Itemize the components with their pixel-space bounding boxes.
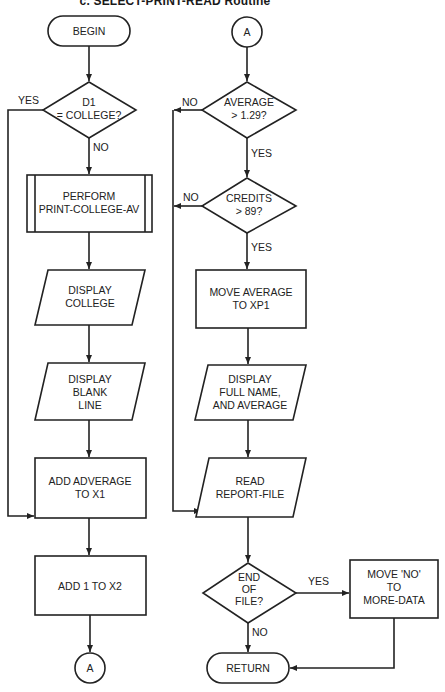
decision-d1-line2: = COLLEGE?	[57, 109, 122, 121]
decision-eof-line3: FILE?	[235, 595, 263, 607]
decision-credits: CREDITS > 89?	[202, 178, 296, 233]
move-average-process: MOVE AVERAGE TO XP1	[196, 270, 306, 328]
begin-label: BEGIN	[73, 25, 106, 37]
move-no-process: MOVE 'NO' TO MORE-DATA	[350, 560, 438, 618]
credits-yes-label: YES	[251, 241, 272, 253]
display-college-line1: DISPLAY	[68, 284, 112, 296]
move-average-line1: MOVE AVERAGE	[209, 286, 292, 298]
decision-d1-line1: D1	[82, 96, 96, 108]
decision-credits-line1: CREDITS	[226, 192, 272, 204]
perform-line1: PERFORM	[63, 190, 116, 202]
display-college-io: DISPLAY COLLEGE	[35, 270, 145, 325]
read-report-file-io: READ REPORT-FILE	[196, 458, 306, 517]
display-blank-line2: BLANK	[73, 386, 107, 398]
eof-yes-label: YES	[308, 575, 329, 587]
move-no-line3: MORE-DATA	[363, 594, 424, 606]
move-no-line2: TO	[387, 581, 401, 593]
d1-yes-label: YES	[18, 94, 39, 106]
decision-eof-line1: END	[238, 571, 261, 583]
display-blank-line-io: DISPLAY BLANK LINE	[35, 363, 145, 420]
display-college-line2: COLLEGE	[65, 297, 115, 309]
move-no-line1: MOVE 'NO'	[367, 568, 421, 580]
decision-eof-line2: OF	[242, 583, 257, 595]
decision-average-line2: > 1.29?	[231, 109, 266, 121]
d1-no-label: NO	[93, 141, 109, 153]
connector-a-out-label: A	[86, 662, 93, 674]
average-yes-label: YES	[251, 147, 272, 159]
display-blank-line1: DISPLAY	[68, 373, 112, 385]
add-average-process: ADD ADVERAGE TO X1	[35, 458, 146, 518]
read-file-line1: READ	[235, 475, 265, 487]
display-full-line3: AND AVERAGE	[213, 399, 288, 411]
average-no-label: NO	[182, 96, 198, 108]
display-blank-line3: LINE	[78, 399, 101, 411]
add-average-line1: ADD ADVERAGE	[49, 475, 132, 487]
return-label: RETURN	[226, 662, 270, 674]
display-full-line1: DISPLAY	[228, 373, 272, 385]
credits-no-label: NO	[183, 191, 199, 203]
decision-end-of-file: END OF FILE?	[203, 563, 296, 623]
add-one-label: ADD 1 TO X2	[58, 580, 122, 592]
read-file-line2: REPORT-FILE	[216, 488, 285, 500]
decision-average-line1: AVERAGE	[224, 96, 274, 108]
add-one-process: ADD 1 TO X2	[35, 556, 146, 615]
decision-credits-line2: > 89?	[236, 205, 263, 217]
display-full-name-io: DISPLAY FULL NAME, AND AVERAGE	[195, 365, 306, 420]
perform-predefined-process: PERFORM PRINT-COLLEGE-AV	[27, 175, 152, 232]
perform-line2: PRINT-COLLEGE-AV	[39, 203, 140, 215]
connector-a-in: A	[232, 17, 262, 47]
decision-d1-college: D1 = COLLEGE?	[43, 82, 136, 138]
decision-average: AVERAGE > 1.29?	[202, 82, 296, 138]
display-full-line2: FULL NAME,	[219, 386, 280, 398]
move-no-to-return-path	[290, 618, 394, 668]
connector-a-in-label: A	[243, 26, 250, 38]
begin-terminal: BEGIN	[48, 16, 130, 46]
connector-a-out: A	[75, 653, 105, 683]
move-average-line2: TO XP1	[232, 299, 269, 311]
eof-no-label: NO	[252, 626, 268, 638]
return-terminal: RETURN	[207, 653, 289, 683]
add-average-line2: TO X1	[75, 488, 105, 500]
